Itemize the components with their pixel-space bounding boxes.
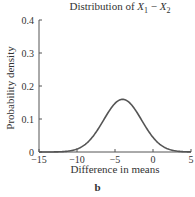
y-tick-label: 0.2: [22, 81, 35, 92]
x-axis-label: Difference in means: [40, 163, 190, 175]
y-tick-label: 0.1: [22, 114, 35, 125]
density-curve: [39, 99, 191, 152]
panel-label: b: [0, 181, 195, 193]
y-tick-label: 0: [29, 147, 34, 158]
y-tick-label: 0.4: [22, 15, 35, 26]
y-tick-label: 0.3: [22, 48, 35, 59]
axes: −15−10−50500.10.20.30.4: [22, 15, 194, 166]
